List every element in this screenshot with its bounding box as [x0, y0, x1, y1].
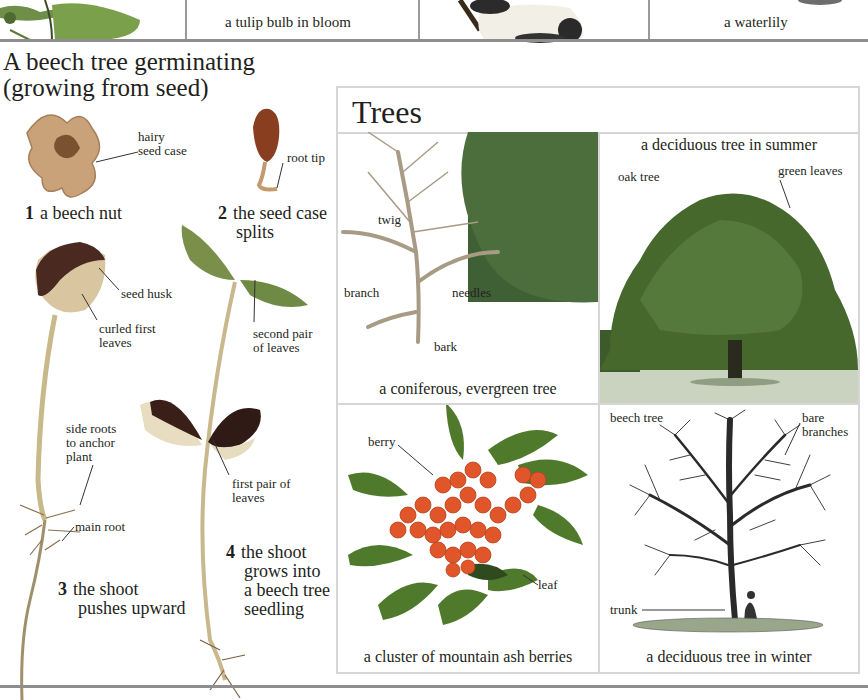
label-twig: twig — [378, 213, 401, 227]
germination-title-line2: (growing from seed) — [3, 75, 209, 101]
caption-waterlily: a waterlily — [724, 14, 788, 31]
page-bottom-rule — [0, 685, 868, 688]
label-leaves: leaves — [99, 336, 131, 350]
caption-winter: a deciduous tree in winter — [600, 648, 858, 666]
leader-line — [96, 150, 146, 170]
leader-line — [99, 268, 129, 298]
panel-coniferous: twig branch needles bark a coniferous, e… — [338, 132, 600, 405]
shoot-pushes-upward-image — [0, 240, 120, 700]
label-berry: berry — [368, 435, 395, 449]
caption-summer: a deciduous tree in summer — [600, 136, 858, 154]
leader-line — [82, 294, 102, 324]
strip-divider — [185, 0, 187, 40]
label-second-pair: second pair — [253, 327, 313, 341]
conifer-image — [338, 132, 600, 362]
label-plant: plant — [66, 450, 92, 464]
leader-line — [252, 280, 262, 325]
step-4: 4the shoot — [226, 543, 307, 562]
step-4-line3: a beech tree — [244, 581, 330, 600]
caption-coniferous: a coniferous, evergreen tree — [338, 380, 598, 398]
caption-mountain-ash: a cluster of mountain ash berries — [338, 648, 598, 666]
label-root-tip: root tip — [287, 151, 325, 165]
label-leaf: leaf — [538, 578, 557, 592]
leader-line — [213, 440, 238, 480]
label-of-leaves: of leaves — [253, 341, 300, 355]
step-1: 1a beech nut — [25, 204, 122, 223]
label-to-anchor: to anchor — [66, 436, 115, 450]
label-main-root: main root — [75, 520, 125, 534]
plant-leaf-image-left — [0, 0, 185, 40]
label-green-leaves: green leaves — [778, 164, 843, 178]
label-hairy: hairy — [138, 130, 165, 144]
step-4-line4: seedling — [244, 600, 304, 619]
bulb-image — [420, 0, 650, 40]
oak-tree-image — [600, 180, 858, 405]
label-branch: branch — [344, 286, 379, 300]
label-needles: needles — [452, 286, 491, 300]
label-side-roots: side roots — [66, 422, 116, 436]
waterlily-image — [790, 0, 850, 10]
label-bark: bark — [434, 340, 457, 354]
panel-deciduous-summer: a deciduous tree in summer oak tree gree… — [600, 132, 858, 405]
label-trunk: trunk — [610, 603, 637, 617]
top-photo-strip: a tulip bulb in bloom a waterlily — [0, 0, 868, 40]
trees-panel: Trees twig branch needles bark a conifer… — [336, 86, 860, 674]
leader-line — [276, 163, 286, 193]
leader-line — [78, 465, 98, 510]
panel-deciduous-winter: beech tree bare branches — [600, 405, 858, 672]
label-first-pair: first pair of — [232, 477, 290, 491]
panel-mountain-ash: berry leaf a cluster of mountain ash ber… — [338, 405, 600, 672]
caption-tulip: a tulip bulb in bloom — [225, 14, 351, 31]
label-first-pair-leaves: leaves — [232, 491, 264, 505]
leader-line — [60, 527, 80, 547]
step-4-line2: grows into — [244, 562, 321, 581]
strip-rule — [0, 39, 868, 42]
trees-title: Trees — [352, 94, 422, 131]
strip-divider — [648, 0, 650, 40]
winter-beech-tree-image — [600, 405, 858, 635]
step-3: 3the shoot — [58, 580, 139, 599]
trees-title-bar: Trees — [338, 88, 858, 134]
germination-title-line1: A beech tree germinating — [3, 49, 255, 75]
